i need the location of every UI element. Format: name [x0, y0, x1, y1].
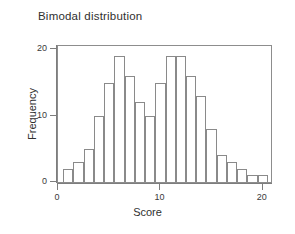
y-axis-tick-label: 10 [37, 110, 47, 120]
y-axis: 01020 [50, 45, 57, 183]
x-axis-tick [262, 183, 263, 190]
histogram-bar [145, 116, 155, 182]
histogram-bar [176, 56, 186, 182]
histogram-bar [104, 83, 114, 183]
x-axis-line [57, 183, 272, 184]
x-axis-tick [57, 183, 58, 190]
histogram-figure: Bimodal distribution Frequency 01020 010… [0, 0, 295, 234]
y-axis-tick-label: 0 [42, 176, 47, 186]
histogram-bar [155, 83, 165, 183]
x-axis-title: Score [0, 206, 295, 218]
histogram-bar [186, 76, 196, 182]
histogram-bar [125, 76, 135, 182]
y-axis-tick [50, 48, 57, 49]
y-axis-tick [50, 181, 57, 182]
x-axis: 01020 [57, 183, 272, 190]
histogram-bar [63, 169, 73, 182]
chart-title: Bimodal distribution [38, 10, 142, 22]
histogram-bar [166, 56, 176, 182]
histogram-bar [227, 162, 237, 182]
bars-layer [58, 46, 271, 182]
histogram-bar [258, 175, 268, 182]
histogram-bar [73, 162, 83, 182]
histogram-bar [135, 102, 145, 182]
histogram-bar [84, 149, 94, 182]
plot-area [57, 45, 272, 183]
y-axis-tick-label: 20 [37, 43, 47, 53]
x-axis-tick [159, 183, 160, 190]
x-axis-tick-label: 0 [54, 192, 59, 202]
y-axis-tick [50, 115, 57, 116]
histogram-bar [247, 175, 257, 182]
x-axis-tick-label: 20 [257, 192, 267, 202]
histogram-bar [196, 96, 206, 182]
histogram-bar [94, 116, 104, 182]
histogram-bar [237, 169, 247, 182]
histogram-bar [217, 155, 227, 182]
histogram-bar [206, 129, 216, 182]
histogram-bar [114, 56, 124, 182]
x-axis-tick-label: 10 [154, 192, 164, 202]
